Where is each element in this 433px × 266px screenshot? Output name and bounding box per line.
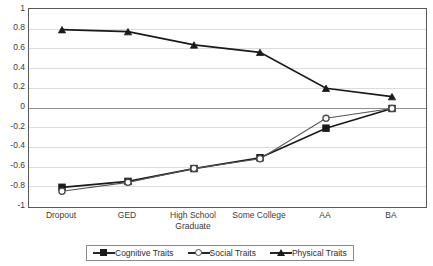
line-chart: 10.80.60.40.20-0.2-0.4-0.6-0.8-1 Dropout… [0,0,433,266]
legend-marker-open-circle-icon [188,248,210,258]
data-point-marker [125,179,131,185]
legend-symbol [100,249,107,256]
y-axis-tick-label: 0.2 [1,82,25,91]
x-axis-tick-label: Dropout [46,210,76,221]
legend-label: Physical Traits [292,248,347,258]
y-axis-tick-labels: 10.80.60.40.20-0.2-0.4-0.6-0.8-1 [0,0,25,216]
y-axis-tick-label: 0.6 [1,43,25,52]
series-layer [29,9,425,206]
chart-legend: Cognitive TraitsSocial TraitsPhysical Tr… [86,245,354,261]
x-axis-tick-label: GED [118,210,136,221]
legend-symbol [277,249,285,256]
y-axis-tick-label: -1 [1,201,25,210]
legend-symbol [195,249,202,256]
y-axis-tick-label: 0.8 [1,23,25,32]
legend-item-1[interactable]: Cognitive Traits [93,248,174,258]
x-axis-tick-label: Some College [232,210,285,221]
legend-marker-filled-square-icon [93,248,115,258]
legend-label: Social Traits [210,248,256,258]
data-point-marker [257,156,263,162]
series-line-3 [62,30,392,97]
plot-area [28,8,427,208]
y-axis-tick-label: 0 [1,102,25,111]
legend-item-2[interactable]: Social Traits [188,248,256,258]
x-axis-tick-label: AA [319,210,330,221]
data-point-marker [191,165,197,171]
y-axis-tick-label: -0.4 [1,141,25,150]
x-axis-tick-label: BA [385,210,396,221]
data-point-marker [323,125,329,131]
legend-marker-filled-triangle-icon [270,248,292,258]
y-axis-tick-label: -0.2 [1,122,25,131]
legend-label: Cognitive Traits [115,248,174,258]
data-point-marker [389,105,395,111]
legend-item-3[interactable]: Physical Traits [270,248,347,258]
data-point-marker [323,115,329,121]
y-axis-tick-label: 1 [1,4,25,13]
y-axis-tick-label: -0.8 [1,181,25,190]
series-line-1 [62,108,392,187]
series-line-2 [62,108,392,191]
x-axis-tick-label: High School Graduate [170,210,216,231]
y-axis-tick-label: -0.6 [1,161,25,170]
y-axis-tick-label: 0.4 [1,63,25,72]
x-axis-tick-labels: DropoutGEDHigh School GraduateSome Colle… [28,210,427,240]
data-point-marker [59,188,65,194]
